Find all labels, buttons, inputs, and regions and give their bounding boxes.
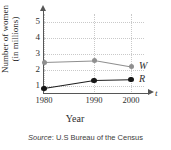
x-axis-symbol-label: t — [155, 88, 158, 98]
source-caption: Source: U.S Bureau of the Census — [0, 133, 171, 142]
x-axis-line — [43, 93, 149, 94]
y-tick-label: 1 — [27, 80, 40, 90]
y-axis-title-line2: (in millions) — [10, 17, 20, 62]
gridline-horizontal — [44, 38, 144, 39]
gridline-vertical — [44, 14, 45, 92]
x-tick-label: 2000 — [116, 95, 146, 105]
x-axis-arrow — [148, 89, 154, 95]
x-tick-label: 1990 — [79, 95, 109, 105]
x-axis-title: Year — [0, 113, 150, 124]
chart-figure: Number of women (in millions) 12345 t Ye… — [0, 0, 171, 150]
source-text: : U.S Bureau of the Census — [52, 133, 143, 142]
gridline-horizontal — [44, 70, 144, 71]
data-point-w — [92, 58, 97, 63]
x-tick-label: 1980 — [29, 95, 59, 105]
series-label-r: R — [139, 73, 145, 84]
y-tick-label: 2 — [27, 64, 40, 74]
y-tick-labels: 12345 — [27, 0, 40, 150]
data-point-r — [41, 86, 46, 91]
data-point-w — [42, 60, 47, 65]
source-prefix: Source — [28, 133, 52, 142]
data-point-r — [91, 78, 96, 83]
y-axis-title-line1: Number of women — [0, 5, 10, 73]
y-tick-label: 3 — [27, 48, 40, 58]
gridline-horizontal — [44, 22, 144, 23]
y-tick-label: 4 — [27, 32, 40, 42]
series-label-w: W — [139, 60, 147, 71]
gridline-horizontal — [44, 54, 144, 55]
y-axis-line — [43, 10, 44, 94]
y-tick-label: 5 — [27, 16, 40, 26]
data-point-r — [128, 77, 133, 82]
y-axis-arrow — [40, 5, 46, 11]
y-axis-title: Number of women (in millions) — [0, 0, 25, 82]
data-point-w — [129, 64, 134, 69]
